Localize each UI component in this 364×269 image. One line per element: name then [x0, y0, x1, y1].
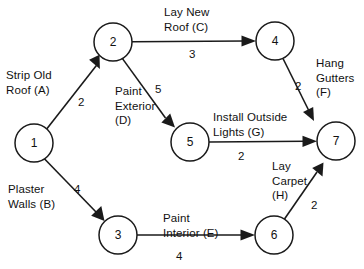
node-1-label: 1 — [31, 136, 38, 150]
duration-label-e: 4 — [176, 250, 182, 263]
duration-label-c: 3 — [189, 48, 195, 61]
edge-5-to-7-line — [209, 141, 306, 142]
activity-label-a: Strip Old Roof (A) — [6, 68, 52, 97]
duration-label-h: 2 — [311, 199, 317, 212]
edge-2-to-4[interactable] — [132, 35, 256, 46]
node-6[interactable]: 6 — [255, 216, 293, 254]
node-7[interactable]: 7 — [317, 122, 355, 160]
edge-2-to-4-line — [132, 41, 245, 42]
node-2-label: 2 — [110, 35, 117, 49]
edge-2-to-4-arrowhead — [242, 35, 257, 46]
activity-label-h: Lay Carpet (H) — [272, 159, 307, 203]
duration-label-a: 2 — [78, 96, 84, 109]
activity-label-b: Plaster Walls (B) — [8, 182, 55, 211]
node-5[interactable]: 5 — [171, 123, 209, 161]
activity-label-e: Paint Interior (E) — [163, 211, 219, 240]
duration-label-g: 2 — [238, 150, 244, 163]
network-diagram: 1 2 3 4 5 6 7 Strip Old Roof (A) Plaster… — [0, 0, 364, 269]
node-1[interactable]: 1 — [15, 124, 53, 162]
edge-1-to-2-line — [47, 66, 97, 129]
node-3-label: 3 — [115, 228, 122, 242]
node-4-label: 4 — [272, 34, 279, 48]
activity-label-f: Hang Gutters (F) — [316, 56, 354, 100]
node-5-label: 5 — [187, 135, 194, 149]
node-7-label: 7 — [333, 134, 340, 148]
node-4[interactable]: 4 — [256, 22, 294, 60]
duration-label-f: 2 — [295, 80, 301, 93]
edge-3-to-6-arrowhead — [241, 229, 256, 240]
edge-1-to-2[interactable] — [47, 55, 100, 129]
duration-label-d: 5 — [155, 83, 161, 96]
edge-5-to-7-arrowhead — [303, 136, 318, 147]
node-6-label: 6 — [271, 228, 278, 242]
activity-label-g: Install Outside Lights (G) — [213, 110, 287, 139]
node-3[interactable]: 3 — [99, 216, 137, 254]
activity-label-d: Paint Exterior (D) — [115, 84, 155, 128]
node-2[interactable]: 2 — [94, 23, 132, 61]
edge-6-to-7-arrowhead — [312, 163, 323, 177]
duration-label-b: 4 — [74, 183, 80, 196]
activity-label-c: Lay New Roof (C) — [164, 5, 209, 34]
